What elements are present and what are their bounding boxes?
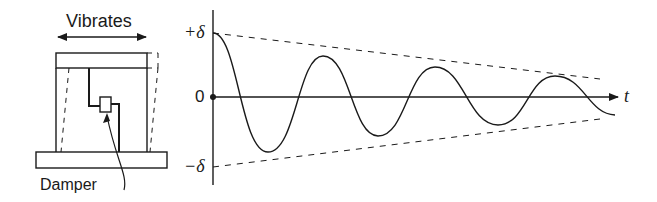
zero-label: 0 xyxy=(195,87,204,107)
vibrates-label: Vibrates xyxy=(66,11,132,32)
upper-bound-label: +δ xyxy=(184,22,205,43)
damped-vibration-diagram: Vibrates Damper +δ 0 −δ t xyxy=(0,0,657,202)
damper-icon xyxy=(100,97,111,112)
lower-envelope xyxy=(213,119,600,167)
damped-response-curve xyxy=(213,33,615,152)
time-axis-label: t xyxy=(624,86,629,107)
building-structure xyxy=(36,37,167,190)
damper-label: Damper xyxy=(40,176,97,194)
lower-bound-label: −δ xyxy=(184,156,205,177)
response-plot xyxy=(210,10,618,185)
damper-pointer-arrowhead xyxy=(103,113,110,123)
origin-dot xyxy=(210,94,216,100)
upper-envelope xyxy=(213,33,600,79)
top-slab xyxy=(56,53,147,68)
damper-pointer-arrow xyxy=(107,116,125,190)
base-slab xyxy=(36,152,167,168)
